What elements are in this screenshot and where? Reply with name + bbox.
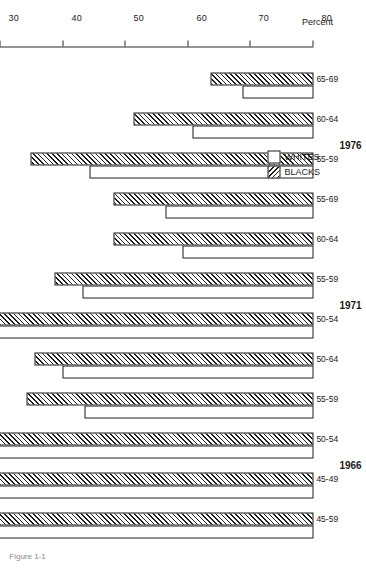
axis-tick-label: 50	[108, 14, 144, 23]
bar-blacks	[0, 512, 313, 525]
axis-tick	[0, 40, 1, 46]
category-label: 50-54	[309, 435, 345, 444]
legend-label: WHITES	[284, 152, 319, 161]
group-label-1971: 1971	[330, 300, 366, 310]
bar-whites	[82, 285, 313, 298]
axis-tick-label: 60	[171, 14, 207, 23]
legend-label: BLACKS	[284, 167, 320, 176]
legend-item: WHITES	[267, 150, 319, 163]
bar-whites	[0, 525, 313, 538]
axis-tick	[250, 40, 251, 46]
axis-tick-label: 80	[296, 14, 332, 23]
legend-swatch-whites	[267, 150, 280, 163]
category-label: 45-49	[309, 475, 345, 484]
axis-tick	[187, 40, 188, 46]
bar-whites	[242, 85, 313, 98]
value-axis-line	[0, 46, 313, 47]
axis-tick	[125, 40, 126, 46]
category-label: 60-64	[309, 235, 345, 244]
bar-whites	[0, 325, 313, 338]
bar-blacks	[26, 392, 313, 405]
bar-blacks	[113, 192, 313, 205]
bar-whites	[62, 365, 313, 378]
category-label: 45-59	[309, 515, 345, 524]
axis-tick-label: 40	[46, 14, 82, 23]
bar-blacks	[133, 112, 313, 125]
bar-whites	[165, 205, 313, 218]
bar-blacks	[54, 272, 313, 285]
bar-blacks	[34, 352, 313, 365]
figure-caption: Figure 1-1	[9, 552, 45, 560]
bar-blacks	[0, 432, 313, 445]
bar-whites	[192, 125, 313, 138]
group-label-1976: 1976	[330, 140, 366, 150]
legend-item: BLACKS	[267, 165, 320, 178]
bar-blacks	[0, 312, 313, 325]
bar-whites	[0, 445, 313, 458]
legend-swatch-blacks	[267, 165, 280, 178]
bar-blacks	[211, 72, 314, 85]
bar-whites	[84, 405, 313, 418]
axis-tick	[62, 40, 63, 46]
axis-tick-label: 30	[0, 14, 19, 23]
category-label: 55-59	[309, 275, 345, 284]
axis-tick	[312, 40, 313, 46]
category-label: 50-54	[309, 315, 345, 324]
group-label-1966: 1966	[330, 460, 366, 470]
bar-whites	[182, 245, 313, 258]
category-label: 55-59	[309, 395, 345, 404]
category-label: 65-69	[309, 75, 345, 84]
category-label: 55-69	[309, 195, 345, 204]
category-label: 60-64	[309, 115, 345, 124]
bar-blacks	[0, 472, 313, 485]
axis-tick-label: 70	[233, 14, 269, 23]
category-label: 50-64	[309, 355, 345, 364]
bar-blacks	[113, 232, 313, 245]
bar-whites	[0, 485, 313, 498]
